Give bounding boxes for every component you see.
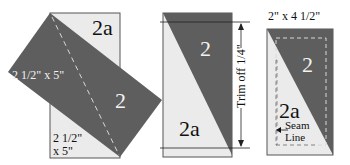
label-2: 2 <box>200 36 211 61</box>
rotated-size-label: 2 1/2" x 5" <box>12 68 64 82</box>
label-2: 2 <box>302 52 313 77</box>
trim-label: Trim off 1/4" <box>234 44 248 108</box>
panel-3-finished: 2" x 4 1/2" 2 2a Seam Line <box>267 9 333 155</box>
seam-label-line1: Seam <box>285 119 310 131</box>
quilt-diagram: 2a 2 2 1/2" x 5" 2 1/2" x 5" Trim off 1/… <box>0 0 350 165</box>
base-size-line2: x 5" <box>53 144 73 158</box>
arrow-down-icon <box>238 140 244 147</box>
panel-2-trim: Trim off 1/4" 2 2a <box>160 13 250 157</box>
label-2a: 2a <box>92 15 113 40</box>
arrow-up-icon <box>238 23 244 30</box>
base-size-line1: 2 1/2" <box>53 131 82 145</box>
finished-size-label: 2" x 4 1/2" <box>268 9 320 23</box>
seam-label-line2: Line <box>285 131 305 143</box>
label-2: 2 <box>115 88 126 113</box>
label-2a: 2a <box>179 116 200 141</box>
panel-1-stitch-and-flip: 2a 2 2 1/2" x 5" 2 1/2" x 5" <box>8 13 162 158</box>
